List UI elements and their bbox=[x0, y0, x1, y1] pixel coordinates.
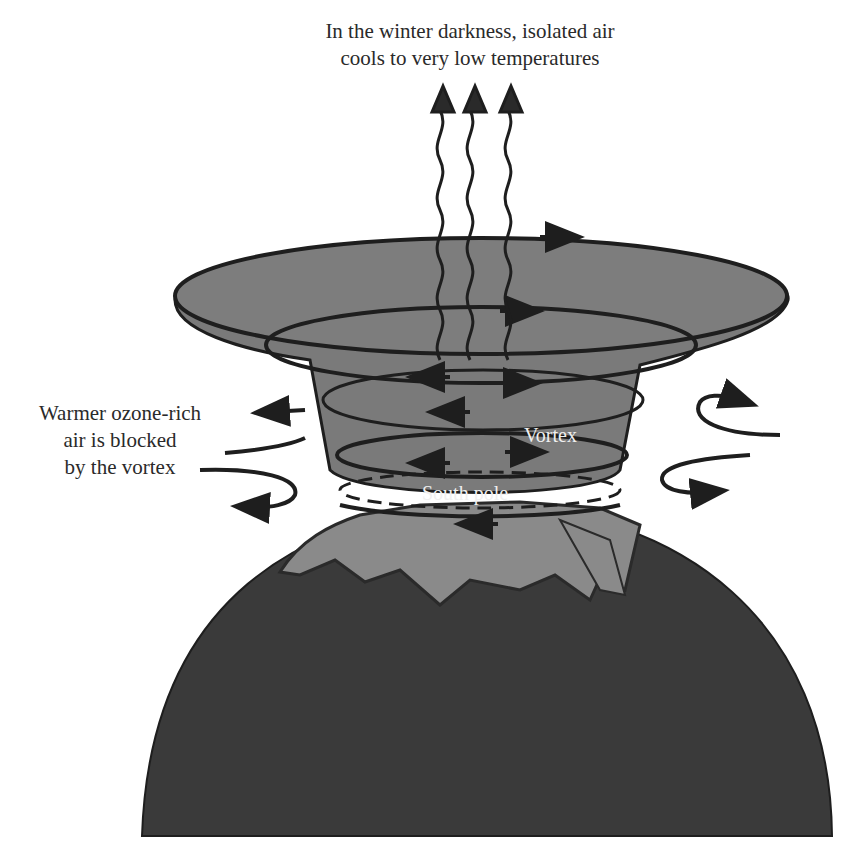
title-line-2: cools to very low temperatures bbox=[270, 45, 670, 72]
blocked-air-arrows-right bbox=[662, 396, 780, 493]
title-line-1: In the winter darkness, isolated air bbox=[270, 18, 670, 45]
left-label-line-2: air is blocked bbox=[20, 427, 220, 454]
blocked-air-caption: Warmer ozone-rich air is blocked by the … bbox=[20, 400, 220, 481]
vortex-funnel bbox=[175, 237, 788, 524]
title-caption: In the winter darkness, isolated air coo… bbox=[270, 18, 670, 72]
left-label-line-3: by the vortex bbox=[20, 454, 220, 481]
south-pole-label: South pole bbox=[422, 482, 508, 505]
vortex-label: Vortex bbox=[524, 424, 577, 447]
left-label-line-1: Warmer ozone-rich bbox=[20, 400, 220, 427]
